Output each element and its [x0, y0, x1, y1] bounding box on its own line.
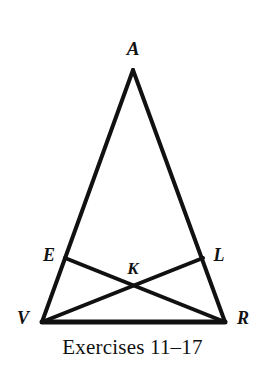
vertex-label-R: R [237, 309, 249, 327]
figure-caption: Exercises 11–17 [0, 336, 265, 358]
vertex-label-E: E [43, 246, 55, 264]
vertex-label-V: V [17, 309, 29, 327]
geometry-figure: A E L K V R Exercises 11–17 [0, 0, 265, 367]
vertex-label-L: L [214, 246, 225, 264]
vertex-label-A: A [127, 39, 140, 58]
vertex-label-K: K [127, 260, 138, 277]
